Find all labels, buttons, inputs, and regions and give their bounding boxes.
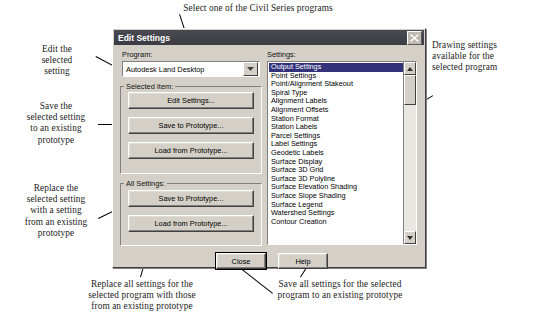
scroll-track[interactable]: [404, 75, 416, 231]
scroll-up-button[interactable]: [404, 62, 416, 75]
settings-list-items[interactable]: Output SettingsPoint SettingsPoint/Align…: [268, 62, 403, 244]
program-label: Program:: [122, 50, 152, 59]
scroll-thumb[interactable]: [404, 75, 416, 105]
annotation-edit-selected: Edit the selected setting: [8, 44, 106, 78]
save-to-prototype-all-button[interactable]: Save to Prototype...: [128, 190, 254, 207]
annotation-top: Select one of the Civil Series programs: [118, 3, 398, 14]
edit-settings-dialog: Edit Settings Program: Autodesk Land Des…: [112, 28, 426, 268]
save-to-prototype-selected-button[interactable]: Save to Prototype...: [128, 117, 254, 134]
settings-listbox[interactable]: Output SettingsPoint SettingsPoint/Align…: [267, 61, 417, 245]
program-combobox-value: Autodesk Land Desktop: [123, 65, 243, 74]
dialog-body: Program: Autodesk Land Desktop Selected …: [113, 46, 425, 267]
screenshot-root: Select one of the Civil Series programs …: [0, 0, 539, 333]
close-button[interactable]: [407, 31, 422, 45]
settings-label: Settings:: [267, 50, 296, 59]
scroll-down-button[interactable]: [404, 231, 416, 244]
help-button[interactable]: Help: [278, 253, 328, 269]
settings-list-item[interactable]: Contour Creation: [269, 218, 403, 227]
annotation-drawing-settings: Drawing settings available for the selec…: [432, 40, 538, 74]
selected-item-label: Selected Item:: [124, 82, 175, 91]
all-settings-label: All Settings:: [124, 179, 167, 188]
annotation-replace-all: Replace all settings for the selected pr…: [62, 279, 222, 313]
edit-settings-button[interactable]: Edit Settings...: [128, 92, 254, 109]
dialog-title: Edit Settings: [118, 33, 407, 43]
settings-scrollbar[interactable]: [403, 62, 416, 244]
dialog-titlebar[interactable]: Edit Settings: [114, 30, 424, 45]
close-dialog-button[interactable]: Close: [216, 253, 266, 269]
annotation-save-selected: Save the selected setting to an existing…: [4, 101, 108, 146]
load-from-prototype-all-button[interactable]: Load from Prototype...: [128, 215, 254, 232]
program-combobox[interactable]: Autodesk Land Desktop: [122, 61, 260, 77]
load-from-prototype-selected-button[interactable]: Load from Prototype...: [128, 142, 254, 159]
chevron-down-icon[interactable]: [243, 62, 258, 76]
annotation-replace-selected: Replace the selected setting with a sett…: [4, 183, 108, 239]
